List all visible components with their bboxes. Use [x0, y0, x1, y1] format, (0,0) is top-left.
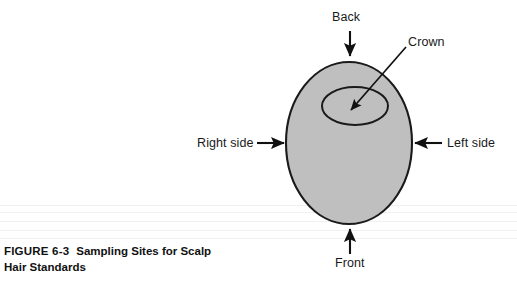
caption-number: FIGURE 6-3 — [4, 245, 69, 257]
figure-caption: FIGURE 6-3Sampling Sites for Scalp Hair … — [4, 243, 304, 275]
label-front: Front — [335, 256, 365, 270]
figure-container: Back Crown Right side Left side Front FI… — [0, 0, 517, 289]
caption-title: Sampling Sites for Scalp — [76, 245, 211, 257]
label-left-side: Left side — [447, 136, 495, 150]
caption-line-two: Hair Standards — [4, 259, 304, 275]
label-right-side: Right side — [197, 136, 254, 150]
label-back: Back — [332, 10, 360, 24]
label-crown: Crown — [408, 35, 445, 49]
